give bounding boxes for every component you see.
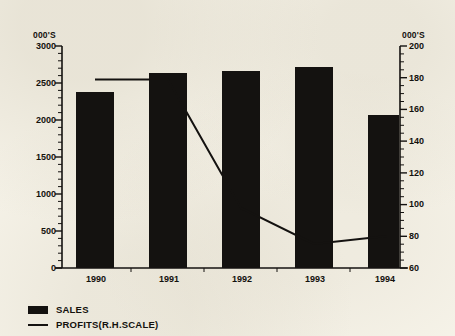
- left-axis-major-ticks: [55, 46, 62, 268]
- legend-profits-line-icon: [28, 324, 48, 326]
- x-tick-1992: 1992: [216, 274, 268, 284]
- x-tick-1994: 1994: [359, 274, 411, 284]
- chart-legend: SALES PROFITS(R.H.SCALE): [28, 302, 158, 332]
- x-tick-1990: 1990: [70, 274, 122, 284]
- x-tick-1991: 1991: [143, 274, 195, 284]
- profits-line-series: [95, 80, 387, 245]
- legend-item-profits: PROFITS(R.H.SCALE): [28, 317, 158, 332]
- legend-item-sales: SALES: [28, 302, 158, 317]
- legend-sales-label: SALES: [56, 304, 89, 315]
- legend-sales-swatch-icon: [28, 306, 48, 314]
- legend-profits-label: PROFITS(R.H.SCALE): [56, 319, 158, 330]
- chart-canvas: [0, 0, 455, 336]
- chart-page: 000'S 000'S 3000 2500 2000 1500 1000 500…: [0, 0, 455, 336]
- x-tick-1993: 1993: [289, 274, 341, 284]
